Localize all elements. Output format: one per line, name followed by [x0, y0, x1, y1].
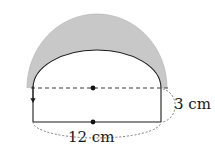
lower-center-dot [91, 120, 96, 125]
upper-center-dot [91, 86, 96, 91]
half-cylinder-front-face [33, 50, 161, 138]
geometry-figure: 3 cm 12 cm [0, 0, 215, 156]
width-label: 12 cm [68, 130, 114, 145]
height-label: 3 cm [174, 97, 211, 112]
